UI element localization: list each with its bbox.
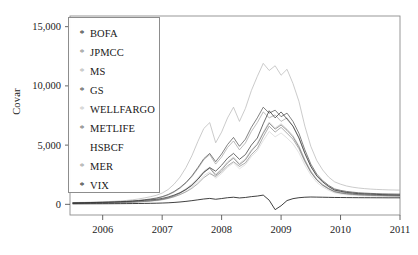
legend-marker-icon: * bbox=[77, 29, 87, 39]
legend-item[interactable]: *GS bbox=[69, 81, 159, 100]
y-tick-label: 5,000 bbox=[37, 140, 61, 151]
legend-marker-icon: * bbox=[77, 86, 87, 96]
legend-item[interactable]: *METLIFE bbox=[69, 119, 159, 138]
legend-item-label: WELLFARGO bbox=[90, 104, 155, 115]
y-tick-label: 10,000 bbox=[32, 80, 61, 91]
legend-item-label: VIX bbox=[90, 180, 109, 191]
legend-item[interactable]: *JPMCC bbox=[69, 43, 159, 62]
legend-marker-icon: * bbox=[77, 105, 87, 115]
legend-item[interactable]: *WELLFARGO bbox=[69, 100, 159, 119]
legend-marker-icon: * bbox=[77, 48, 87, 58]
x-tick-label: 2010 bbox=[330, 224, 351, 235]
legend-item-label: BOFA bbox=[90, 28, 118, 39]
legend-marker-icon: * bbox=[77, 162, 87, 172]
legend-marker-icon: * bbox=[77, 67, 87, 77]
legend-list: *BOFA*JPMCC*MS*GS*WELLFARGO*METLIFE HSBC… bbox=[69, 18, 159, 195]
legend-item[interactable]: *BOFA bbox=[69, 24, 159, 43]
x-tick-label: 2011 bbox=[390, 224, 411, 235]
x-tick-label: 2009 bbox=[271, 224, 292, 235]
legend-item-label: MS bbox=[90, 66, 105, 77]
y-tick-label: 15,000 bbox=[32, 21, 61, 32]
legend-item[interactable]: *MS bbox=[69, 62, 159, 81]
legend-item-label: HSBCF bbox=[90, 142, 124, 153]
x-tick-label: 2006 bbox=[92, 224, 113, 235]
legend-item[interactable]: HSBCF bbox=[69, 138, 159, 157]
legend-item[interactable]: *VIX bbox=[69, 176, 159, 195]
legend-item-label: METLIFE bbox=[90, 123, 135, 134]
chart-plot-area: 05,00010,00015,0002006200720082009201020… bbox=[0, 0, 418, 255]
y-tick-label: 0 bbox=[56, 199, 61, 210]
x-tick-label: 2008 bbox=[211, 224, 232, 235]
legend-marker-icon: * bbox=[77, 181, 87, 191]
x-tick-label: 2007 bbox=[152, 224, 173, 235]
legend-item-label: JPMCC bbox=[90, 47, 124, 58]
legend-marker-icon: * bbox=[77, 124, 87, 134]
covar-chart-figure: Covar 05,00010,00015,0002006200720082009… bbox=[0, 0, 418, 255]
legend-item-label: GS bbox=[90, 85, 104, 96]
chart-legend: *BOFA*JPMCC*MS*GS*WELLFARGO*METLIFE HSBC… bbox=[68, 17, 160, 193]
legend-item[interactable]: *MER bbox=[69, 157, 159, 176]
legend-item-label: MER bbox=[90, 161, 113, 172]
